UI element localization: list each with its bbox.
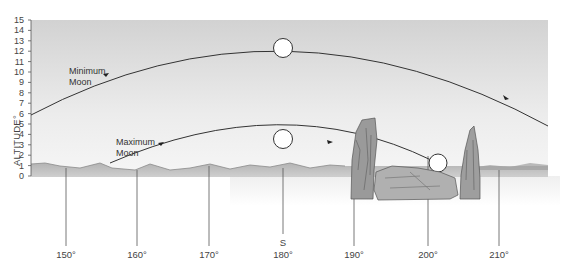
y-tick-15: 15 <box>8 15 24 25</box>
y-tick-14: 14 <box>8 25 24 35</box>
maximum-moon-label: Maximum Moon <box>116 137 155 159</box>
x-tick-190: 190° <box>334 249 374 260</box>
minimum-moon-label: Minimum Moon <box>69 66 106 88</box>
x-tick-210: 210° <box>479 249 519 260</box>
diagram-canvas <box>0 0 561 271</box>
y-tick-10: 10 <box>8 67 24 77</box>
x-tick-200: 200° <box>408 249 448 260</box>
y-tick-11: 11 <box>8 57 24 67</box>
y-tick-12: 12 <box>8 46 24 56</box>
moon-minimum <box>274 39 293 58</box>
y-tick-7: 7 <box>8 98 24 108</box>
x-tick-150: 150° <box>46 249 86 260</box>
x-tick-180: 180° <box>263 249 303 260</box>
y-tick-8: 8 <box>8 88 24 98</box>
moon-setting <box>429 154 447 172</box>
moon-maximum <box>274 130 293 149</box>
x-tick-160: 160° <box>117 249 157 260</box>
x-tick-south: S <box>263 237 303 248</box>
y-tick-0: 0 <box>8 171 24 181</box>
y-tick-9: 9 <box>8 77 24 87</box>
y-tick-13: 13 <box>8 36 24 46</box>
figure: 0 1 2 3 4 5 6 7 8 9 10 11 12 13 14 15 AL… <box>0 0 561 271</box>
y-axis-label: ALTITUDE° <box>11 111 22 171</box>
y-axis-ticks <box>28 20 31 176</box>
x-tick-170: 170° <box>189 249 229 260</box>
